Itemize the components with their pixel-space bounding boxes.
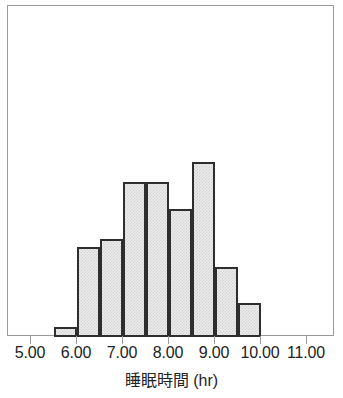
x-axis-tick-label: 8.00 xyxy=(153,343,183,363)
histogram-bar xyxy=(192,162,215,337)
x-axis-tick-label: 5.00 xyxy=(15,343,45,363)
x-axis-tick-label: 6.00 xyxy=(61,343,91,363)
x-axis-tick-label: 9.00 xyxy=(199,343,229,363)
histogram-bar xyxy=(123,182,146,337)
plot-frame xyxy=(7,5,334,336)
x-axis-tick-labels: 5.006.007.008.009.0010.0011.00 xyxy=(0,343,343,365)
histogram-bar xyxy=(77,247,100,337)
x-axis-tick-label: 7.00 xyxy=(107,343,137,363)
histogram-bar xyxy=(169,209,192,337)
x-axis-title: 睡眠時間 (hr) xyxy=(0,370,343,392)
bars-layer xyxy=(8,6,335,337)
histogram-bar xyxy=(238,303,261,337)
histogram-figure: 5.006.007.008.009.0010.0011.00 睡眠時間 (hr) xyxy=(0,0,343,398)
histogram-bar xyxy=(215,267,238,337)
x-axis-tick-label: 10.00 xyxy=(240,343,279,363)
x-axis-tick-label: 11.00 xyxy=(287,343,325,363)
histogram-bar xyxy=(146,182,169,337)
histogram-bar xyxy=(100,239,123,337)
